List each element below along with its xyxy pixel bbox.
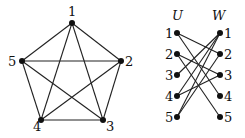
w-vertex: [217, 114, 223, 120]
w-vertex: [217, 51, 223, 57]
vertex: [118, 58, 124, 64]
edge: [177, 33, 220, 75]
vertex: [19, 58, 25, 64]
vertex-label: 1: [68, 4, 76, 19]
graph-diagram: 12345 1234512345UW: [0, 0, 245, 138]
w-vertex: [217, 30, 223, 36]
edge: [22, 23, 72, 61]
vertex-label: 3: [106, 119, 114, 134]
edge: [41, 61, 121, 120]
vertex-label: 4: [33, 119, 41, 134]
u-vertex: [174, 72, 180, 78]
u-label: 5: [165, 110, 173, 125]
vertex-label: 2: [125, 54, 133, 69]
w-label: 5: [224, 110, 232, 125]
u-vertex: [174, 114, 180, 120]
w-label: 2: [224, 47, 232, 62]
edge: [22, 61, 103, 120]
w-title: W: [212, 8, 227, 23]
u-vertex: [174, 51, 180, 57]
edge: [41, 23, 72, 120]
u-label: 1: [165, 26, 173, 41]
w-label: 3: [224, 68, 232, 83]
u-label: 3: [165, 68, 173, 83]
edge: [22, 61, 41, 120]
vertex: [69, 20, 75, 26]
u-label: 4: [165, 89, 173, 104]
edge: [103, 61, 121, 120]
w-vertex: [217, 72, 223, 78]
bipartite-graph: 1234512345UW: [165, 8, 232, 125]
edge: [177, 33, 220, 117]
u-label: 2: [165, 47, 173, 62]
w-label: 4: [224, 89, 232, 104]
u-vertex: [174, 93, 180, 99]
u-vertex: [174, 30, 180, 36]
w-label: 1: [224, 26, 232, 41]
edge: [72, 23, 103, 120]
vertex-label: 5: [8, 54, 16, 69]
u-title: U: [172, 8, 184, 23]
edge: [177, 33, 220, 54]
w-vertex: [217, 93, 223, 99]
complete-graph-k5: 12345: [8, 4, 133, 134]
edge: [72, 23, 121, 61]
